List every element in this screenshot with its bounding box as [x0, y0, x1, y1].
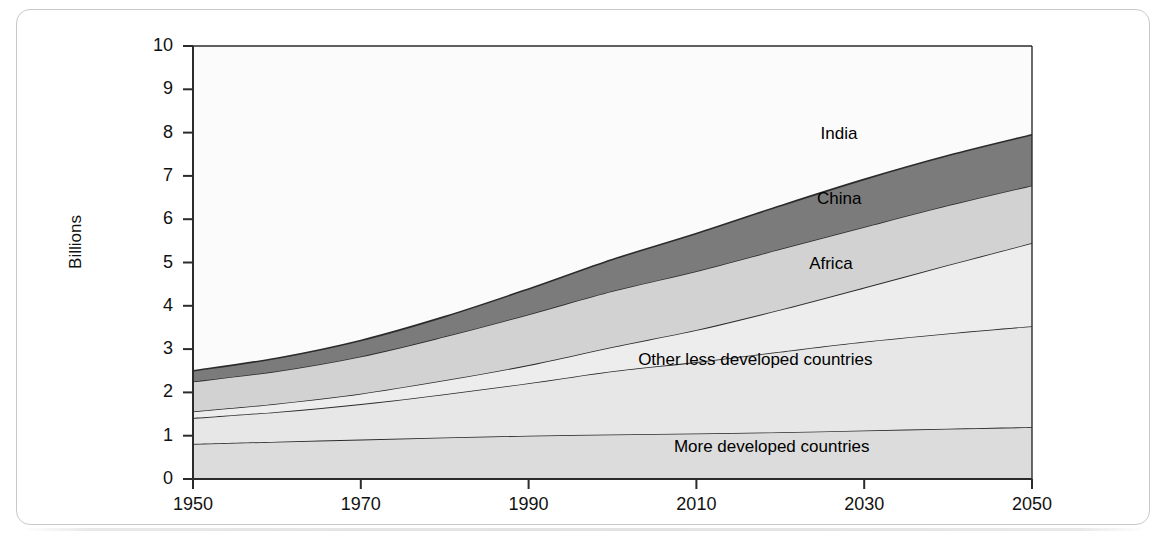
y-tick-label-8: 8: [139, 122, 173, 143]
x-tick-label-1970: 1970: [326, 494, 396, 515]
y-axis-title: Billions: [66, 162, 86, 322]
y-tick-label-10: 10: [139, 35, 173, 56]
y-tick-label-7: 7: [139, 165, 173, 186]
series-label-china: China: [817, 189, 861, 209]
series-label-more-developed-countries: More developed countries: [674, 437, 870, 457]
y-tick-label-9: 9: [139, 78, 173, 99]
y-tick-label-2: 2: [139, 381, 173, 402]
x-tick-label-2050: 2050: [997, 494, 1067, 515]
series-label-africa: Africa: [809, 254, 852, 274]
y-tick-label-3: 3: [139, 338, 173, 359]
y-tick-label-6: 6: [139, 208, 173, 229]
x-tick-label-2010: 2010: [661, 494, 731, 515]
y-tick-label-4: 4: [139, 295, 173, 316]
y-tick-label-0: 0: [139, 468, 173, 489]
x-tick-label-1950: 1950: [158, 494, 228, 515]
series-label-other-less-developed-countries: Other less developed countries: [638, 350, 872, 370]
population-projection-area-chart: Billions 0123456789101950197019902010203…: [0, 0, 1166, 549]
plot-svg: [0, 0, 1166, 549]
y-tick-label-1: 1: [139, 425, 173, 446]
series-label-india: India: [821, 124, 858, 144]
x-tick-label-2030: 2030: [829, 494, 899, 515]
y-tick-label-5: 5: [139, 252, 173, 273]
x-tick-label-1990: 1990: [494, 494, 564, 515]
